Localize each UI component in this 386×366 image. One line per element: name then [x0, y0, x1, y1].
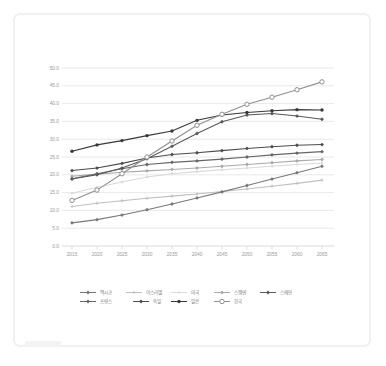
x-tick-label: 2020	[92, 252, 103, 257]
x-tick-label: 2065	[317, 252, 328, 257]
data-point-marker	[95, 166, 99, 170]
data-point-marker	[270, 161, 274, 165]
legend-item-mexico: 멕시코	[80, 289, 112, 296]
x-tick-label: 2025	[117, 252, 128, 257]
data-point-marker	[320, 164, 324, 168]
data-point-marker	[295, 108, 298, 111]
data-point-marker	[270, 145, 274, 149]
data-point-marker	[145, 208, 149, 212]
data-point-marker	[320, 80, 324, 84]
data-point-marker	[170, 160, 174, 164]
x-tick-label: 2060	[292, 252, 303, 257]
data-point-marker	[245, 111, 248, 114]
legend-label: 스웨덴	[234, 289, 246, 296]
data-point-marker	[195, 119, 198, 122]
legend-label: 이스라엘	[146, 289, 162, 296]
data-point-marker	[195, 196, 199, 200]
data-point-marker	[177, 300, 180, 303]
y-tick-label: 35.0	[50, 119, 60, 124]
data-point-marker	[270, 109, 273, 112]
data-point-marker	[195, 166, 199, 170]
data-point-marker	[270, 177, 274, 181]
x-tick-label: 2055	[267, 252, 278, 257]
data-point-marker	[145, 163, 149, 167]
data-point-marker	[120, 162, 124, 166]
data-point-marker	[70, 177, 74, 181]
data-point-marker	[120, 213, 124, 217]
data-point-marker	[295, 114, 299, 118]
y-tick-label: 10.0	[50, 208, 60, 213]
legend-item-germany: 독일	[133, 298, 161, 305]
y-tick-label: 40.0	[50, 101, 60, 106]
data-point-marker	[170, 153, 174, 157]
y-tick-label: 25.0	[50, 155, 60, 160]
data-point-marker	[145, 155, 149, 159]
gridlines	[62, 68, 334, 228]
legend-label: 일본	[191, 298, 199, 304]
y-tick-label: 50.0	[50, 66, 60, 71]
data-point-marker	[86, 300, 90, 304]
x-tick-label: 2015	[67, 252, 78, 257]
legend-label: 독일	[153, 298, 161, 305]
data-point-marker	[295, 159, 299, 163]
data-point-marker	[220, 190, 224, 194]
data-point-marker	[320, 150, 324, 154]
data-point-marker	[320, 108, 323, 111]
data-point-marker	[70, 169, 74, 173]
x-tick-label: 2040	[192, 252, 203, 257]
y-tick-label: 45.0	[50, 83, 60, 88]
y-tick-label: 0.0	[52, 244, 59, 249]
legend-item-korea: 한국	[214, 299, 242, 305]
data-point-marker	[245, 184, 249, 188]
x-axis-labels: 2015202020252030203520402045205020552060…	[67, 252, 328, 257]
data-point-marker	[139, 300, 143, 304]
data-point-marker	[220, 149, 224, 153]
legend-label: 프랑스	[100, 298, 112, 304]
data-point-marker	[245, 163, 249, 167]
data-point-marker	[195, 132, 199, 136]
data-point-marker	[295, 88, 299, 92]
data-point-marker	[120, 139, 123, 142]
data-point-marker	[145, 169, 149, 173]
y-tick-label: 20.0	[50, 172, 60, 177]
data-point-marker	[170, 202, 174, 206]
x-axis	[62, 246, 334, 250]
chart-canvas: 0.05.010.015.020.025.030.035.040.045.050…	[0, 0, 386, 366]
legend-item-israel: 이스라엘	[126, 289, 162, 296]
x-tick-label: 2035	[167, 252, 178, 257]
data-point-marker	[245, 102, 249, 106]
data-point-marker	[295, 171, 299, 175]
legend-label: 스페인	[280, 289, 292, 296]
legend-item-spain: 스페인	[260, 289, 292, 296]
data-point-marker	[220, 157, 224, 161]
y-tick-label: 5.0	[52, 226, 59, 231]
data-point-marker	[95, 218, 99, 222]
data-point-marker	[70, 198, 74, 202]
data-point-marker	[170, 129, 173, 132]
data-point-marker	[95, 143, 98, 146]
data-point-marker	[245, 147, 249, 151]
data-point-marker	[270, 153, 274, 157]
y-tick-label: 30.0	[50, 137, 60, 142]
data-point-marker	[270, 95, 274, 99]
data-point-marker	[220, 112, 224, 116]
data-point-marker	[266, 291, 270, 295]
data-point-marker	[86, 291, 90, 295]
data-point-marker	[220, 291, 224, 295]
data-point-marker	[120, 172, 124, 176]
x-tick-label: 2050	[242, 252, 253, 257]
data-point-marker	[295, 143, 299, 147]
legend-label: 미국	[191, 289, 199, 296]
legend-item-sweden: 스웨덴	[214, 289, 246, 296]
legend-label: 한국	[234, 299, 242, 305]
legend-item-usa: 미국	[171, 289, 199, 296]
legend-item-france: 프랑스	[80, 298, 112, 304]
legend: 멕시코이스라엘미국스웨덴스페인프랑스독일일본한국	[80, 289, 292, 305]
data-point-marker	[320, 158, 324, 162]
x-tick-label: 2030	[142, 252, 153, 257]
data-point-marker	[170, 168, 174, 172]
data-point-marker	[220, 164, 224, 168]
legend-label: 멕시코	[100, 289, 112, 296]
data-point-marker	[170, 144, 174, 148]
series-line-korea	[72, 82, 322, 201]
